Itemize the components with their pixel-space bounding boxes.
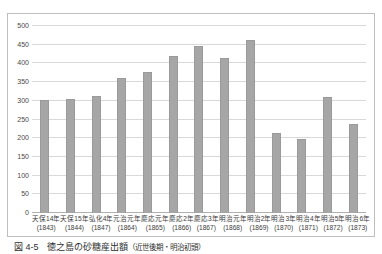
x-axis-label: 明治2年(1869) [247, 215, 272, 233]
x-axis-label-year: (1867) [194, 224, 219, 233]
bar-slot [238, 26, 264, 213]
x-axis-label-year: (1864) [113, 224, 141, 233]
x-axis-label-era: 明治5年 [321, 215, 346, 224]
bar[interactable] [194, 46, 203, 213]
x-axis-label: 明治5年(1872) [321, 215, 346, 233]
bar-slot [160, 26, 186, 213]
x-axis-label: 天保15年(1844) [60, 215, 88, 233]
x-axis-label-year: (1870) [271, 224, 296, 233]
caption-subtitle: （近世後期・明治初頭） [128, 243, 205, 252]
bar[interactable] [66, 99, 75, 213]
x-axis-labels: 天保14年(1843)天保15年(1844)弘化4年(1847)元治元年(186… [32, 215, 366, 233]
x-axis-label-year: (1866) [169, 224, 194, 233]
bar-slot [315, 26, 341, 213]
y-axis-tick-label: 50 [21, 190, 29, 197]
figure-container: 単位：万斤 500450400350300250200150100500 天保1… [0, 0, 382, 254]
bar[interactable] [143, 72, 152, 213]
caption-title: 徳之島の砂糖産出額 [47, 242, 128, 252]
bar-slot [32, 26, 58, 213]
bar-slot [135, 26, 161, 213]
bar[interactable] [349, 124, 358, 213]
x-axis-label: 元治元年(1864) [113, 215, 141, 233]
y-axis-tick-label: 350 [17, 78, 29, 85]
y-axis-tick-label: 200 [17, 134, 29, 141]
x-axis-label-year: (1871) [296, 224, 321, 233]
x-axis-label: 明治4年(1871) [296, 215, 321, 233]
x-axis-label-era: 明治元年 [219, 215, 247, 224]
x-axis-label-era: 明治3年 [271, 215, 296, 224]
x-axis-label-era: 元治元年 [113, 215, 141, 224]
y-axis-tick-label: 150 [17, 152, 29, 159]
y-axis-tick-label: 500 [17, 22, 29, 29]
x-axis-label-year: (1844) [60, 224, 88, 233]
x-axis-label-era: 慶応3年 [194, 215, 219, 224]
x-axis-label-year: (1873) [345, 224, 370, 233]
x-axis-label: 慶応元年(1865) [141, 215, 169, 233]
bar[interactable] [92, 96, 101, 213]
bar-slot [109, 26, 135, 213]
x-axis-label-era: 明治2年 [247, 215, 272, 224]
bar-slot [186, 26, 212, 213]
x-axis-label: 弘化4年(1847) [89, 215, 114, 233]
bar-series [32, 26, 366, 213]
x-axis-label-year: (1868) [219, 224, 247, 233]
x-axis-label-year: (1872) [321, 224, 346, 233]
bar-slot [263, 26, 289, 213]
x-axis-label-era: 天保14年 [32, 215, 60, 224]
x-axis-label-year: (1847) [89, 224, 114, 233]
bar-slot [83, 26, 109, 213]
bar-slot [58, 26, 84, 213]
x-axis-label: 慶応3年(1867) [194, 215, 219, 233]
bar[interactable] [169, 56, 178, 213]
y-axis-tick-label: 300 [17, 96, 29, 103]
bar[interactable] [246, 40, 255, 213]
x-axis-label-era: 明治6年 [345, 215, 370, 224]
x-axis-label: 慶応2年(1866) [169, 215, 194, 233]
bar[interactable] [40, 100, 49, 213]
y-axis-tick-label: 250 [17, 115, 29, 122]
y-axis-tick-label: 100 [17, 171, 29, 178]
x-axis-label-year: (1865) [141, 224, 169, 233]
bar[interactable] [272, 133, 281, 213]
bar[interactable] [117, 78, 126, 213]
x-axis-label-era: 慶応2年 [169, 215, 194, 224]
chart-frame: 単位：万斤 500450400350300250200150100500 天保1… [7, 13, 375, 237]
x-axis-label-era: 天保15年 [60, 215, 88, 224]
y-axis-tick-label: 0 [25, 209, 29, 216]
x-axis-label: 明治3年(1870) [271, 215, 296, 233]
bar[interactable] [297, 139, 306, 213]
plot-area: 500450400350300250200150100500 [32, 26, 366, 213]
x-axis-label-era: 弘化4年 [89, 215, 114, 224]
bar-slot [289, 26, 315, 213]
x-axis-label-era: 慶応元年 [141, 215, 169, 224]
y-axis-tick-label: 450 [17, 40, 29, 47]
bar[interactable] [220, 58, 229, 213]
bar[interactable] [323, 97, 332, 213]
figure-caption: 図 4-5徳之島の砂糖産出額（近世後期・明治初頭） [14, 240, 205, 253]
x-axis-label-year: (1869) [247, 224, 272, 233]
x-axis-label-era: 明治4年 [296, 215, 321, 224]
y-axis-tick-label: 400 [17, 59, 29, 66]
caption-number: 図 4-5 [14, 242, 39, 252]
bar-slot [212, 26, 238, 213]
bar-slot [340, 26, 366, 213]
x-axis-label: 明治6年(1873) [345, 215, 370, 233]
x-axis-label: 明治元年(1868) [219, 215, 247, 233]
x-axis-label-year: (1843) [32, 224, 60, 233]
x-axis-label: 天保14年(1843) [32, 215, 60, 233]
